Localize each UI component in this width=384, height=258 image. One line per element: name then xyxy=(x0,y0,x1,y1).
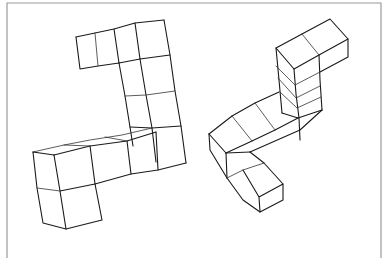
page-frame xyxy=(7,3,381,258)
right-polycube-shape xyxy=(209,19,348,212)
left-polycube-shape xyxy=(33,20,186,229)
